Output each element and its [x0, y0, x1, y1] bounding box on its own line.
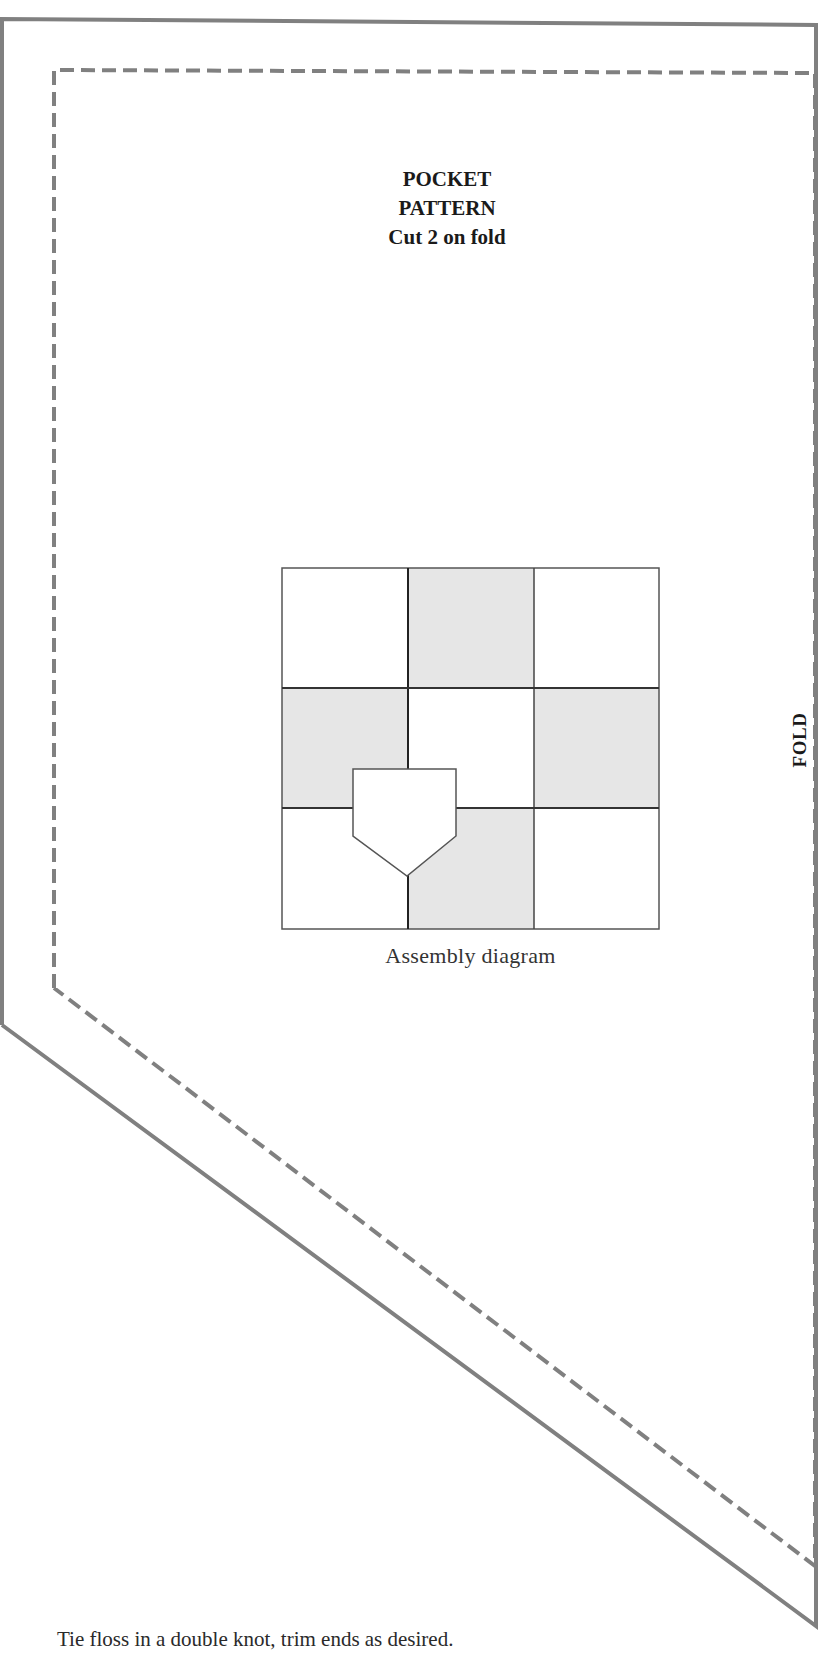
- grid-cell-r3c3: [534, 808, 659, 929]
- title-line-2: PATTERN: [347, 194, 547, 223]
- grid-cell-r2c3: [534, 688, 659, 808]
- assembly-diagram-caption: Assembly diagram: [282, 943, 659, 969]
- fold-label: FOLD: [780, 710, 820, 770]
- grid-cell-r1c1: [282, 568, 408, 688]
- pattern-title: POCKET PATTERN Cut 2 on fold: [347, 165, 547, 252]
- instruction-text: Tie floss in a double knot, trim ends as…: [57, 1627, 453, 1652]
- assembly-diagram-grid: [282, 568, 659, 929]
- grid-cell-r1c2: [408, 568, 534, 688]
- title-line-1: POCKET: [347, 165, 547, 194]
- title-line-3: Cut 2 on fold: [347, 223, 547, 252]
- grid-cell-r1c3: [534, 568, 659, 688]
